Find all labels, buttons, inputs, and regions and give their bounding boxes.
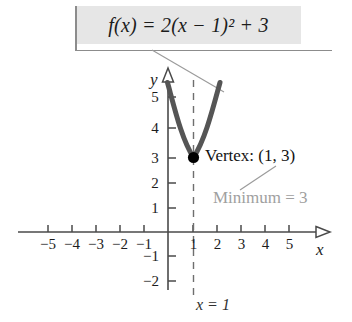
x-tick-label--2: −2: [110, 236, 130, 253]
y-tick-label-2: 2: [148, 175, 162, 192]
y-tick-label-1: 1: [148, 200, 162, 217]
x-tick-label-2: 2: [210, 236, 225, 253]
x-tick-label--4: −4: [62, 236, 82, 253]
y-axis-ticks: [168, 97, 176, 281]
x-axis-title: x: [316, 240, 324, 260]
y-tick-label--1: −1: [140, 248, 162, 265]
x-tick-label--3: −3: [86, 236, 106, 253]
quadratic-function-figure: f(x) = 2(x − 1)² + 3: [0, 0, 352, 322]
minimum-annotation-label: Minimum = 3: [213, 188, 308, 208]
y-axis-title: y: [150, 70, 158, 90]
x-tick-label--5: −5: [38, 236, 58, 253]
x-tick-label-5: 5: [282, 236, 297, 253]
y-tick-label-5: 5: [148, 89, 162, 106]
coordinate-plane: [0, 0, 352, 322]
vertex-point-marker: [188, 152, 199, 163]
x-tick-label-1: 1: [186, 236, 201, 253]
y-tick-label--2: −2: [140, 273, 162, 290]
vertex-annotation-label: Vertex: (1, 3): [205, 146, 295, 166]
formula-leader-line: [152, 50, 224, 92]
axis-of-symmetry-label: x = 1: [196, 296, 230, 314]
y-tick-label-4: 4: [148, 120, 162, 137]
x-tick-label-3: 3: [234, 236, 249, 253]
y-tick-label-3: 3: [148, 150, 162, 167]
minimum-leader-line: [240, 166, 276, 190]
x-tick-label-4: 4: [258, 236, 273, 253]
